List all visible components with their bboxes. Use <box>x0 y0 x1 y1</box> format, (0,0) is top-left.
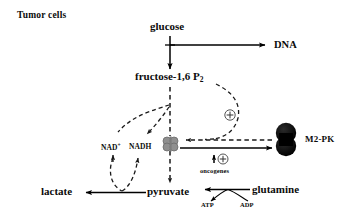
node-lactate: lactate <box>41 186 72 197</box>
fructose-label-text: fructose-1,6 P <box>135 70 200 82</box>
nad-label-text: NAD <box>101 143 118 152</box>
node-m2-pk: M2-PK <box>305 135 335 144</box>
pk-tetramer-icon <box>163 137 178 152</box>
edge-nad-redox-loop <box>110 155 138 191</box>
node-fructose-1-6-bisphosphate: fructose-1,6 P2 <box>135 71 204 84</box>
node-atp: ATP <box>201 202 214 209</box>
page-title: Tumor cells <box>17 11 66 21</box>
annotation-oncogenes: oncogenes <box>200 168 229 175</box>
node-nad-plus: NAD+ <box>101 143 121 152</box>
node-nadh: NADH <box>129 143 151 151</box>
nad-label-superscript: + <box>118 142 121 148</box>
edge-glycolysis-to-nadh <box>147 107 169 134</box>
edge-adp-to-atp <box>211 190 248 202</box>
fructose-label-subscript: 2 <box>200 75 204 84</box>
edge-glucose-to-fructose <box>165 36 175 69</box>
node-dna: DNA <box>274 40 297 51</box>
node-pyruvate: pyruvate <box>147 186 189 197</box>
node-glucose: glucose <box>150 21 184 32</box>
tumor-cell-metabolism-diagram: Tumor cells glucose DNA fructose-1,6 P2 … <box>0 0 349 224</box>
edge-glycolysis-to-nad <box>118 105 169 132</box>
plus-circle-activation-icon <box>225 110 235 120</box>
plus-circle-oncogene-icon <box>218 154 228 164</box>
m2pk-dimer-icon <box>276 123 296 156</box>
node-adp: ADP <box>240 202 254 209</box>
node-glutamine: glutamine <box>252 184 299 195</box>
